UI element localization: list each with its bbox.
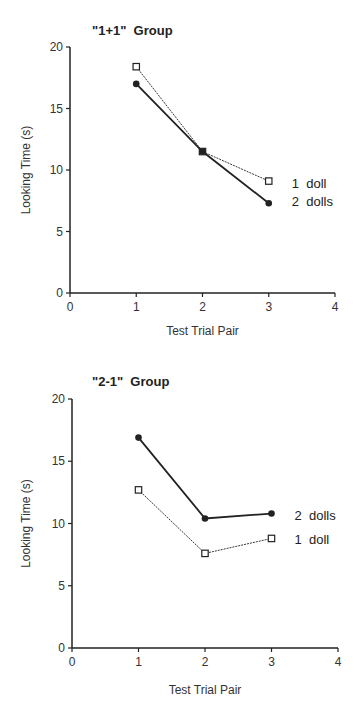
data-point xyxy=(133,81,140,88)
chart-title: "1+1" Group xyxy=(92,23,173,38)
x-tick-label: 3 xyxy=(268,655,275,669)
y-tick-label: 10 xyxy=(52,517,66,531)
data-point xyxy=(268,535,274,541)
data-point xyxy=(268,510,275,517)
x-tick-label: 2 xyxy=(202,655,209,669)
y-tick-label: 20 xyxy=(50,40,64,54)
y-tick-label: 10 xyxy=(50,163,64,177)
x-axis-label: Test Trial Pair xyxy=(166,324,239,338)
y-axis-label: Looking Time (s) xyxy=(19,126,33,215)
y-tick-label: 20 xyxy=(52,392,66,406)
y-tick-label: 0 xyxy=(58,641,65,655)
y-tick-label: 5 xyxy=(58,579,65,593)
data-point xyxy=(135,434,142,441)
y-tick-label: 15 xyxy=(50,102,64,116)
series-2-dolls: 2 dolls xyxy=(135,434,336,522)
data-point xyxy=(202,515,209,522)
legend-label: 1 doll xyxy=(295,532,330,547)
legend-label: 1 doll xyxy=(292,176,327,191)
x-tick-label: 0 xyxy=(69,655,76,669)
chart-2: "2-1" Group0510152001234Test Trial PairL… xyxy=(19,374,342,697)
y-tick-label: 15 xyxy=(52,454,66,468)
x-tick-label: 2 xyxy=(199,300,206,314)
y-axis-label: Looking Time (s) xyxy=(19,479,33,568)
data-point xyxy=(266,178,272,184)
data-point xyxy=(202,550,208,556)
x-tick-label: 4 xyxy=(332,300,339,314)
x-tick-label: 4 xyxy=(335,655,342,669)
data-point xyxy=(133,63,139,69)
data-point xyxy=(199,148,206,155)
figure: "1+1" Group0510152001234Test Trial PairL… xyxy=(0,0,361,717)
x-tick-label: 1 xyxy=(133,300,140,314)
y-tick-label: 0 xyxy=(56,286,63,300)
x-tick-label: 3 xyxy=(265,300,272,314)
chart-1: "1+1" Group0510152001234Test Trial PairL… xyxy=(19,23,339,338)
data-point xyxy=(135,487,141,493)
data-point xyxy=(265,200,272,207)
legend-label: 2 dolls xyxy=(292,194,334,209)
x-tick-label: 1 xyxy=(135,655,142,669)
x-axis-label: Test Trial Pair xyxy=(169,683,242,697)
legend-label: 2 dolls xyxy=(295,508,337,523)
chart-title: "2-1" Group xyxy=(92,374,169,389)
x-tick-label: 0 xyxy=(67,300,74,314)
y-tick-label: 5 xyxy=(56,225,63,239)
